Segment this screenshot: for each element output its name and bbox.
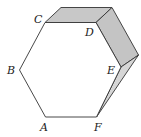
label-a: A bbox=[39, 121, 48, 134]
label-f: F bbox=[93, 121, 102, 134]
hexagon-prism-diagram: C D B E A F bbox=[0, 0, 141, 137]
label-c: C bbox=[34, 13, 43, 26]
label-e: E bbox=[106, 64, 115, 77]
label-d: D bbox=[84, 26, 94, 39]
label-b: B bbox=[6, 64, 15, 77]
